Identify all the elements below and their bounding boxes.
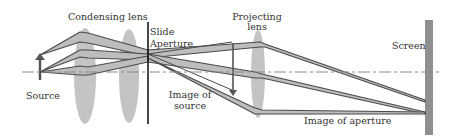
image-of-aperture-label: Image of aperture (304, 116, 391, 126)
image-of-source-label-1: Image of (165, 90, 215, 100)
screen-label: Screen (392, 41, 426, 51)
projecting-lens-label-2: lens (232, 22, 282, 32)
screen (425, 20, 433, 135)
condensing-lens-label: Condensing lens (68, 12, 148, 22)
source-label: Source (26, 91, 60, 101)
image-of-source-arrow-head (229, 90, 237, 96)
aperture-label: Aperture (150, 39, 193, 49)
image-of-source-label-2: source (165, 101, 215, 111)
projector-diagram: Condensing lens Slide Aperture Projectin… (0, 0, 459, 138)
slide-label: Slide (150, 27, 174, 37)
